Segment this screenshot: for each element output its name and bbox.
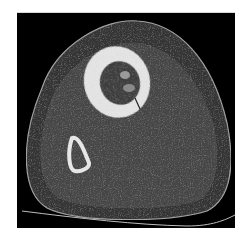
- ct-scan-image: [17, 12, 235, 228]
- ct-slice-graphic: [17, 13, 235, 228]
